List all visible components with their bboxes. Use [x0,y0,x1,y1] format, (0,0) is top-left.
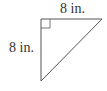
left-side-label: 8 in. [9,41,34,55]
right-angle-marker [41,19,50,28]
top-side-label: 8 in. [60,2,85,16]
